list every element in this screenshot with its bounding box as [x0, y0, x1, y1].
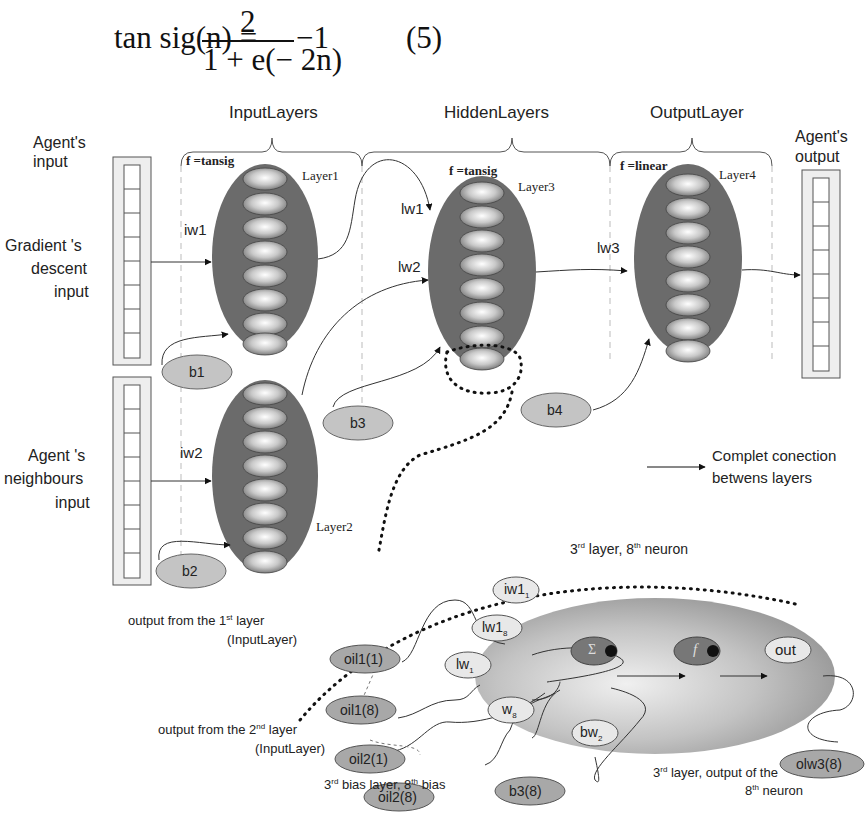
layer3-label: Layer3: [518, 179, 555, 195]
caption-output-layer1: output from the 1st layer: [128, 613, 264, 628]
legend-line-2: betwens layers: [712, 469, 812, 486]
weight-lw2: lw2: [398, 258, 421, 275]
layer1-ellipse: [212, 164, 318, 355]
detail-input-oil2-1: oil2(1): [349, 751, 388, 767]
caption-result-2: 8th neuron: [745, 783, 803, 798]
detail-input-oil1-1: oil1(1): [344, 651, 383, 667]
detail-weight-lw-1: lw1: [456, 656, 474, 675]
layer3-transfer: f =tansig: [449, 163, 497, 179]
input-vector-gradient: [113, 157, 151, 365]
group-label-input: InputLayers: [229, 103, 318, 123]
agent-output-label-2: output: [795, 148, 839, 166]
caption-result: 3rd layer, output of the: [653, 765, 778, 780]
detail-weight-lw1-8: lw18: [482, 619, 507, 638]
neighbours-label-3: input: [55, 494, 90, 512]
layer1-transfer: f =tansig: [186, 153, 234, 169]
detail-weight-iw1-1: iw11: [504, 581, 529, 600]
neighbours-label-1: Agent 's: [28, 447, 85, 465]
detail-output-olw3-8: olw3(8): [796, 756, 842, 772]
layer1-label: Layer1: [302, 168, 339, 184]
group-label-hidden: HiddenLayers: [444, 103, 549, 123]
weight-iw2: iw2: [180, 444, 203, 461]
sum-symbol: Σ: [588, 642, 596, 658]
output-vector: [802, 170, 840, 378]
neighbours-label-2: neighbours: [4, 470, 83, 488]
layer2-ellipse: [212, 380, 318, 573]
caption-bias: 3rd bias layer, 8th bias: [324, 777, 446, 792]
bias-b4: b4: [547, 402, 563, 418]
gradient-label-3: input: [54, 283, 89, 301]
detail-title: 3rd layer, 8th neuron: [570, 541, 688, 557]
bias-b2: b2: [182, 563, 198, 579]
layer4-ellipse: [634, 164, 742, 362]
agent-input-label-1: Agent's: [33, 134, 86, 152]
layer2-label: Layer2: [316, 519, 353, 535]
function-symbol: f: [693, 641, 697, 658]
agent-output-label-1: Agent's: [795, 128, 848, 146]
legend-line-1: Complet conection: [712, 447, 836, 464]
gradient-label-2: descent: [31, 260, 87, 278]
detail-weight-w-8: w8: [502, 701, 517, 720]
bias-b1: b1: [189, 364, 205, 380]
layer4-transfer: f =linear: [620, 158, 667, 174]
layer4-label: Layer4: [719, 167, 756, 183]
detail-neuron: [326, 577, 864, 811]
input-vector-neighbours: [113, 377, 151, 585]
group-label-output: OutputLayer: [650, 103, 744, 123]
caption-output-layer1-sub: (InputLayer): [227, 632, 297, 647]
weight-iw1: iw1: [184, 221, 207, 238]
detail-out: out: [775, 641, 796, 658]
weight-lw3: lw3: [597, 239, 620, 256]
detail-input-b3-8: b3(8): [509, 783, 542, 799]
detail-input-oil1-8: oil1(8): [340, 702, 379, 718]
agent-input-label-2: input: [33, 153, 68, 171]
layer-group-braces: [181, 138, 772, 166]
layer3-ellipse: [428, 176, 536, 370]
gradient-label-1: Gradient 's: [5, 237, 82, 255]
caption-output-layer2-sub: (InputLayer): [255, 741, 325, 756]
caption-output-layer2: output from the 2nd layer: [158, 722, 297, 737]
weight-lw1: lw1: [401, 200, 424, 217]
detail-weight-bw-2: bw2: [580, 724, 602, 743]
bias-b3: b3: [350, 415, 366, 431]
